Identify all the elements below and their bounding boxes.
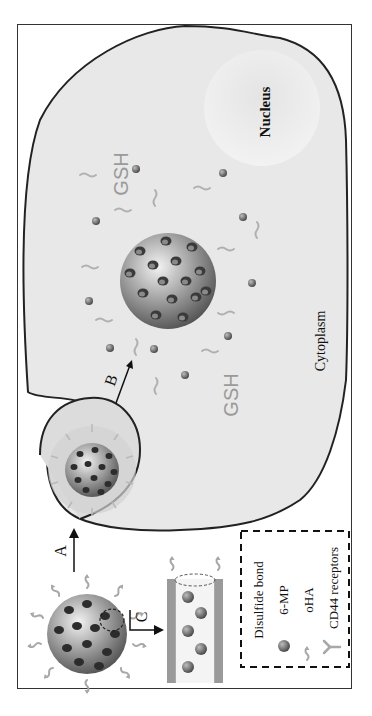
arrow-c-label: C xyxy=(133,612,150,623)
released-nanoparticle xyxy=(120,233,216,329)
legend-label-oha: oHA xyxy=(301,587,316,613)
gsh-label-bottom: GSH xyxy=(220,373,242,416)
legend-label-cd44-receptors: CD44 receptors xyxy=(326,547,341,629)
legend-6mp-icon xyxy=(278,640,290,652)
gsh-label-top: GSH xyxy=(110,152,132,195)
legend-label-disulfide-bond: Disulfide bond xyxy=(251,561,266,639)
legend-label-6mp: 6-MP xyxy=(276,585,291,615)
nanoparticle-drug-delivery-diagram: Nucleus Cytoplasm GSH GSH xyxy=(0,0,372,716)
cytoplasm-label: Cytoplasm xyxy=(313,311,328,372)
nucleus-label: Nucleus xyxy=(257,86,273,137)
arrow-a-label: A xyxy=(52,545,69,557)
